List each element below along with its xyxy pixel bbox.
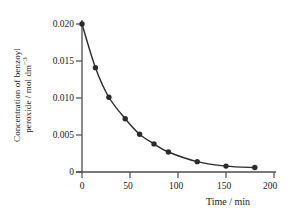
plot-area (0, 0, 294, 218)
chart-figure: Concentration of benzoyl peroxide / mol … (0, 0, 294, 218)
data-point (137, 132, 142, 137)
data-markers (79, 21, 257, 170)
data-point (106, 95, 111, 100)
data-point (223, 163, 228, 168)
data-point (151, 141, 156, 146)
data-point (93, 65, 98, 70)
data-point (79, 21, 84, 26)
data-point (166, 149, 171, 154)
y-axis-ticks (76, 24, 82, 172)
x-axis-ticks (82, 172, 274, 178)
data-point (252, 165, 257, 170)
data-point (123, 116, 128, 121)
data-point (195, 159, 200, 164)
